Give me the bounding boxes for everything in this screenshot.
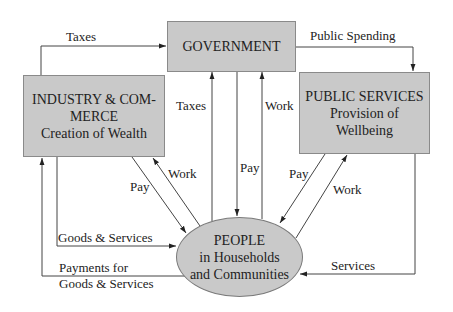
arrow-public-spending [296, 47, 413, 71]
industry-node: INDUSTRY & COM- MERCE Creation of Wealth [23, 75, 165, 157]
label-ps-work: Work [333, 182, 362, 197]
label-ps-pay: Pay [289, 166, 309, 181]
government-node: GOVERNMENT [167, 21, 296, 72]
public-services-node: PUBLIC SERVICES Provision of Wellbeing [299, 72, 430, 154]
label-people-taxes: Taxes [176, 98, 206, 113]
arrow-services [300, 154, 415, 274]
people-line3: and Communities [190, 266, 289, 283]
label-payments-line2: Goods & Services [59, 276, 154, 291]
people-line1: PEOPLE [214, 232, 265, 249]
government-title: GOVERNMENT [183, 38, 281, 55]
public-services-line2: Provision of [330, 105, 399, 122]
people-node: PEOPLE in Households and Communities [176, 217, 303, 297]
industry-line3: Creation of Wealth [41, 125, 147, 142]
label-gov-pay: Pay [240, 160, 260, 175]
label-goods-services: Goods & Services [58, 230, 153, 245]
label-industry-work: Work [168, 166, 197, 181]
label-services: Services [331, 258, 375, 273]
industry-line2: MERCE [70, 108, 118, 125]
people-line2: in Households [199, 249, 280, 266]
label-industry-pay: Pay [130, 179, 150, 194]
label-industry-taxes: Taxes [66, 29, 96, 44]
arrow-industry-taxes [41, 46, 166, 75]
arrow-ps-pay [280, 154, 325, 223]
label-payments-line1: Payments for [59, 260, 128, 275]
label-public-spending: Public Spending [310, 28, 396, 43]
arrow-payments [42, 158, 185, 276]
industry-line1: INDUSTRY & COM- [32, 91, 156, 108]
label-people-work-gov: Work [265, 98, 294, 113]
public-services-line3: Wellbeing [336, 122, 393, 139]
public-services-line1: PUBLIC SERVICES [305, 88, 423, 105]
